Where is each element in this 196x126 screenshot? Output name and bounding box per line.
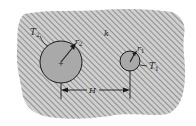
two-cylinder-conduction-diagram: + H k T2 r2 r1 T1 (0, 0, 196, 126)
center-mark-large: + (58, 60, 64, 68)
separation-label: H (88, 86, 97, 95)
medium-conductivity-label: k (104, 29, 109, 38)
